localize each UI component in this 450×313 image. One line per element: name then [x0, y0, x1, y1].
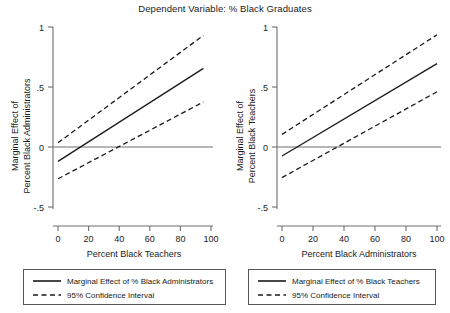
right-yticklabel-3: -.5	[257, 203, 268, 213]
legend-label-dashed: 95% Confidence Interval	[67, 291, 154, 300]
right-xlabel: Percent Black Administrators	[301, 249, 417, 258]
right-xticklabel-5: 100	[429, 234, 444, 244]
right-series-ci-upper-line	[282, 35, 437, 135]
right-xticklabel-0: 0	[279, 234, 284, 244]
left-yticklabel-0: 1	[39, 23, 44, 33]
legend-label-dashed: 95% Confidence Interval	[292, 291, 379, 300]
left-yticklabel-2: 0	[39, 143, 44, 153]
legend-left-panel: Marginal Effect of % Black Administrator…	[23, 269, 226, 305]
right-xticklabel-4: 80	[401, 234, 411, 244]
legend-row-solid: Marginal Effect of % Black Administrator…	[32, 274, 213, 288]
left-xticklabel-3: 60	[145, 234, 155, 244]
right-panel-plot: Marginal Effect of Percent Black Teacher…	[225, 18, 450, 258]
legend-row-dashed: 95% Confidence Interval	[32, 288, 154, 302]
panel-marginal-effect-black-teachers: Marginal Effect of Percent Black Teacher…	[225, 18, 450, 258]
left-panel-plot: Marginal Effect of Percent Black Adminis…	[0, 18, 225, 258]
legend-label-solid: Marginal Effect of % Black Teachers	[292, 277, 420, 286]
right-xticklabel-2: 40	[339, 234, 349, 244]
right-yticklabel-1: .5	[260, 83, 268, 93]
right-xticklabel-3: 60	[370, 234, 380, 244]
legend-row-solid: Marginal Effect of % Black Teachers	[257, 274, 420, 288]
legend-label-solid: Marginal Effect of % Black Administrator…	[67, 277, 213, 286]
left-yticklabel-3: -.5	[33, 203, 44, 213]
right-ylabel-line2: Percent Black Teachers	[247, 88, 257, 183]
solid-line-key-icon	[257, 276, 287, 286]
left-series-ci-lower-line	[58, 102, 203, 179]
right-xticklabel-1: 20	[308, 234, 318, 244]
figure-title: Dependent Variable: % Black Graduates	[0, 3, 450, 14]
right-series-marginal-effect-line	[282, 64, 437, 156]
left-yticklabel-1: .5	[36, 83, 44, 93]
legend-row-dashed: 95% Confidence Interval	[257, 288, 379, 302]
left-xticklabel-0: 0	[55, 234, 60, 244]
left-ylabel-line1: Marginal Effect of	[10, 101, 20, 171]
left-xticklabel-1: 20	[84, 234, 94, 244]
right-ylabel-line1: Marginal Effect of	[235, 101, 245, 171]
left-xlabel: Percent Black Teachers	[87, 249, 182, 258]
left-xticklabel-2: 40	[114, 234, 124, 244]
right-series-ci-lower-line	[282, 92, 437, 178]
legend-right-panel: Marginal Effect of % Black Teachers 95% …	[248, 269, 436, 305]
left-ylabel-line2: Percent Black Administrators	[22, 78, 32, 194]
panel-marginal-effect-black-administrators: Marginal Effect of Percent Black Adminis…	[0, 18, 225, 258]
left-xticklabel-5: 100	[203, 234, 218, 244]
dashed-line-key-icon	[257, 290, 287, 300]
right-yticklabel-2: 0	[263, 143, 268, 153]
right-yticklabel-0: 1	[263, 23, 268, 33]
dashed-line-key-icon	[32, 290, 62, 300]
figure-container: Dependent Variable: % Black Graduates Ma…	[0, 0, 450, 313]
left-xticklabel-4: 80	[175, 234, 185, 244]
left-series-ci-upper-line	[58, 35, 203, 142]
solid-line-key-icon	[32, 276, 62, 286]
